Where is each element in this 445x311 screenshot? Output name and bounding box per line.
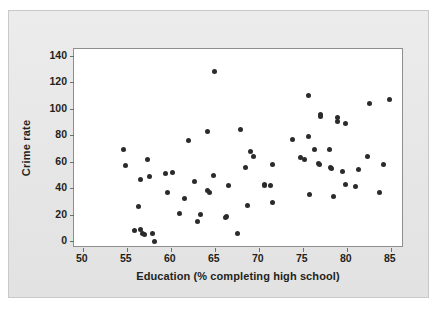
data-point bbox=[381, 162, 386, 167]
data-point bbox=[195, 219, 200, 224]
data-point bbox=[245, 203, 250, 208]
data-point bbox=[307, 192, 312, 197]
data-point bbox=[192, 179, 197, 184]
data-point bbox=[377, 190, 382, 195]
data-point bbox=[329, 166, 334, 171]
data-point bbox=[207, 190, 212, 195]
x-axis-tick-label: 85 bbox=[384, 252, 396, 264]
data-point bbox=[182, 196, 187, 201]
data-point bbox=[136, 204, 141, 209]
data-point bbox=[268, 183, 273, 188]
y-axis-tick-labels: 020406080100120140 bbox=[38, 48, 67, 247]
y-axis-tick-label: 60 bbox=[55, 155, 67, 167]
x-axis-title: Education (% completing high school) bbox=[73, 270, 403, 282]
data-point bbox=[356, 167, 361, 172]
x-axis-tick-label: 50 bbox=[76, 252, 88, 264]
data-point bbox=[387, 97, 392, 102]
data-point bbox=[243, 165, 248, 170]
x-axis-tick-label: 80 bbox=[340, 252, 352, 264]
data-point bbox=[248, 149, 253, 154]
data-point bbox=[123, 163, 128, 168]
data-point bbox=[170, 170, 175, 175]
data-point bbox=[340, 169, 345, 174]
x-axis-tick-label: 55 bbox=[120, 252, 132, 264]
y-axis-tick-label: 120 bbox=[49, 75, 67, 87]
y-axis-tick bbox=[70, 135, 74, 136]
data-point bbox=[353, 184, 358, 189]
y-axis-tick bbox=[70, 109, 74, 110]
y-axis-title-label: Crime rate bbox=[20, 119, 32, 175]
data-point bbox=[290, 137, 295, 142]
data-point bbox=[312, 147, 317, 152]
data-point bbox=[331, 194, 336, 199]
x-axis-tick-label: 75 bbox=[296, 252, 308, 264]
y-axis-tick bbox=[70, 188, 74, 189]
y-axis-tick-label: 100 bbox=[49, 102, 67, 114]
y-axis-tick bbox=[70, 56, 74, 57]
data-point bbox=[138, 177, 143, 182]
data-point bbox=[270, 200, 275, 205]
data-point bbox=[186, 138, 191, 143]
y-axis-tick-label: 20 bbox=[55, 208, 67, 220]
y-axis-tick bbox=[70, 241, 74, 242]
data-point bbox=[335, 119, 340, 124]
data-point bbox=[198, 212, 203, 217]
x-axis-tick-label: 70 bbox=[252, 252, 264, 264]
data-point bbox=[142, 232, 147, 237]
data-point bbox=[163, 171, 168, 176]
y-axis-tick-label: 40 bbox=[55, 181, 67, 193]
data-point bbox=[226, 183, 231, 188]
data-point bbox=[317, 162, 322, 167]
data-point bbox=[211, 173, 216, 178]
x-axis-tick-labels: 5055606570758085 bbox=[73, 252, 403, 268]
data-point bbox=[238, 127, 243, 132]
data-point bbox=[212, 69, 217, 74]
data-point bbox=[306, 93, 311, 98]
data-point bbox=[327, 147, 332, 152]
data-point bbox=[147, 174, 152, 179]
y-axis-tick bbox=[70, 162, 74, 163]
data-point bbox=[343, 121, 348, 126]
x-axis-tick-label: 65 bbox=[208, 252, 220, 264]
data-point bbox=[224, 214, 229, 219]
data-point bbox=[132, 228, 137, 233]
y-axis-tick-label: 0 bbox=[61, 234, 67, 246]
y-axis-tick bbox=[70, 82, 74, 83]
data-point bbox=[302, 157, 307, 162]
data-point bbox=[262, 183, 267, 188]
data-point bbox=[270, 162, 275, 167]
data-point bbox=[150, 231, 155, 236]
data-point bbox=[343, 182, 348, 187]
data-point bbox=[145, 157, 150, 162]
x-axis-tick-label: 60 bbox=[164, 252, 176, 264]
scatter-plot-figure: Crime rate 020406080100120140 5055606570… bbox=[0, 0, 445, 311]
data-point bbox=[251, 154, 256, 159]
data-point bbox=[165, 190, 170, 195]
data-point bbox=[306, 134, 311, 139]
y-axis-tick-label: 80 bbox=[55, 128, 67, 140]
plot-area bbox=[73, 48, 403, 247]
data-point bbox=[152, 239, 157, 244]
data-point bbox=[318, 114, 323, 119]
y-axis-title: Crime rate bbox=[18, 48, 34, 247]
y-axis-tick-label: 140 bbox=[49, 49, 67, 61]
data-point bbox=[235, 231, 240, 236]
data-point bbox=[365, 154, 370, 159]
data-point bbox=[121, 147, 126, 152]
data-point bbox=[205, 129, 210, 134]
y-axis-tick bbox=[70, 215, 74, 216]
data-point bbox=[177, 211, 182, 216]
data-point bbox=[367, 101, 372, 106]
